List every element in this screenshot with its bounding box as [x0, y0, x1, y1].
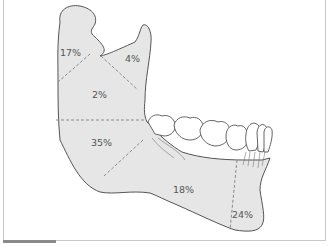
label-symphysis: 24%	[232, 209, 253, 220]
label-condyle: 17%	[60, 47, 81, 58]
label-angle: 35%	[91, 137, 112, 148]
mandible-diagram: 17% 4% 2% 35% 18% 24%	[0, 0, 329, 246]
label-ramus: 2%	[92, 89, 107, 100]
label-body: 18%	[173, 184, 194, 195]
label-coronoid: 4%	[125, 53, 140, 64]
